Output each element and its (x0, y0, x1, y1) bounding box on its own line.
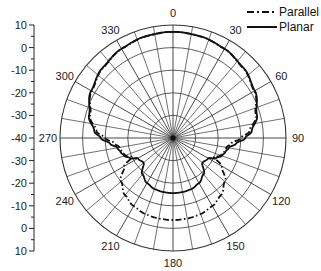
radial-tick-label: 0 (21, 222, 27, 234)
radial-tick-label: -30 (11, 155, 27, 167)
radial-tick-label: 10 (15, 19, 27, 31)
radial-tick-label: -20 (11, 87, 27, 99)
legend: Parallel Planar (247, 5, 319, 34)
polar-chart: 100-10-20-30-40-30-20-10010 030609012015… (0, 0, 321, 271)
radial-tick-label: 0 (21, 42, 27, 54)
legend-parallel-label: Parallel (279, 5, 319, 19)
center-dot (171, 136, 176, 141)
angle-label: 90 (292, 132, 304, 144)
angle-label: 120 (272, 195, 290, 207)
radial-tick-label: -10 (11, 64, 27, 76)
angle-label: 30 (229, 24, 241, 36)
angle-label: 0 (170, 7, 176, 19)
radial-tick-label: -30 (11, 109, 27, 121)
radial-tick-label: -40 (11, 132, 27, 144)
radial-tick-label: -20 (11, 177, 27, 189)
angle-label: 150 (226, 240, 244, 252)
radial-scale-axis: 100-10-20-30-40-30-20-10010 (11, 19, 34, 257)
angle-label: 270 (39, 132, 57, 144)
radial-tick-label: -10 (11, 200, 27, 212)
angle-label: 300 (56, 70, 74, 82)
legend-planar-label: Planar (279, 20, 314, 34)
angle-label: 180 (164, 257, 182, 269)
angle-label: 330 (101, 24, 119, 36)
radial-tick-label: 10 (15, 245, 27, 257)
angle-label: 60 (275, 70, 287, 82)
angle-label: 240 (56, 195, 74, 207)
angle-label: 210 (101, 240, 119, 252)
